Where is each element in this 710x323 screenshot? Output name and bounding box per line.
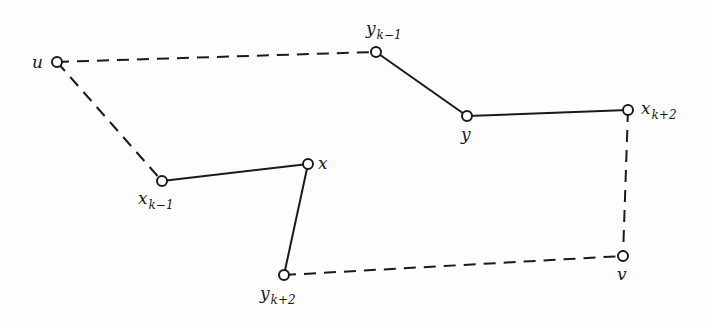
node-u xyxy=(52,57,62,67)
node-x_k+2 xyxy=(623,105,633,115)
edge-y_k+2-v-dashed xyxy=(284,256,623,275)
node-label-x_k-1: xk−1 xyxy=(138,188,174,212)
graph-diagram: uyk−1yxk+2xk−1xyk+2v xyxy=(0,0,710,323)
node-label-y_k+2: yk+2 xyxy=(259,283,296,307)
node-label-y_k-1: yk−1 xyxy=(365,18,402,42)
node-v xyxy=(618,251,628,261)
edge-u-x_k-1-dashed xyxy=(57,62,162,181)
labels-layer: uyk−1yxk+2xk−1xyk+2v xyxy=(32,18,677,307)
edges-layer xyxy=(57,52,628,275)
node-label-x_k+2: xk+2 xyxy=(641,98,677,122)
node-label-y: y xyxy=(460,124,471,144)
node-label-v: v xyxy=(617,264,627,284)
edge-y-x_k+2-solid xyxy=(467,110,628,116)
nodes-layer xyxy=(52,47,633,280)
edge-x_k-1-x-solid xyxy=(162,164,308,181)
edge-x-y_k+2-solid xyxy=(284,164,308,275)
edge-y_k-1-y-solid xyxy=(376,52,467,116)
edge-x_k+2-v-dashed xyxy=(623,110,628,256)
node-y_k+2 xyxy=(279,270,289,280)
diagram-svg: uyk−1yxk+2xk−1xyk+2v xyxy=(0,0,710,323)
edge-u-y_k-1-dashed xyxy=(57,52,376,62)
node-label-u: u xyxy=(32,52,43,72)
node-y_k-1 xyxy=(371,47,381,57)
node-x xyxy=(303,159,313,169)
node-y xyxy=(462,111,472,121)
node-label-x: x xyxy=(318,153,328,173)
node-x_k-1 xyxy=(157,176,167,186)
